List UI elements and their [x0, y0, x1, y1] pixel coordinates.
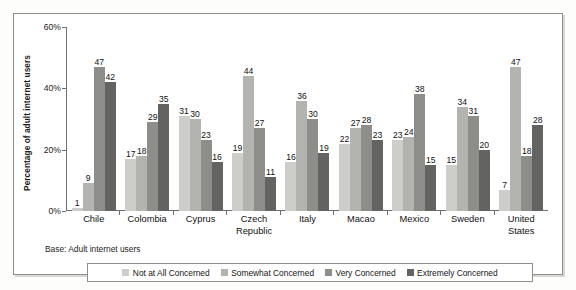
y-tick-mark [62, 88, 66, 89]
bar[interactable] [392, 140, 403, 211]
bar[interactable] [232, 153, 243, 211]
bar-value-label: 1 [75, 198, 80, 208]
bar[interactable] [532, 125, 543, 211]
bar[interactable] [457, 107, 468, 211]
bar[interactable] [285, 162, 296, 211]
bar[interactable] [499, 190, 510, 211]
bar-column: 31 [179, 27, 190, 211]
bar-column: 30 [307, 27, 318, 211]
bar-column: 35 [158, 27, 169, 211]
bar-group: 31302316 [174, 27, 227, 211]
bar[interactable] [339, 144, 350, 211]
bar-group: 19442711 [227, 27, 280, 211]
bar-value-label: 42 [105, 72, 115, 82]
bar[interactable] [243, 76, 254, 211]
bar-column: 16 [212, 27, 223, 211]
bar-value-label: 47 [94, 57, 104, 67]
y-axis-title-container: Percentage of adult internet users [22, 20, 38, 226]
bar-value-label: 19 [233, 143, 243, 153]
y-tick-mark [62, 27, 66, 28]
bar-value-label: 16 [286, 152, 296, 162]
bar[interactable] [403, 137, 414, 211]
bar-set: 194742 [72, 27, 116, 211]
bar-column: 17 [125, 27, 136, 211]
bar[interactable] [372, 140, 383, 211]
bar[interactable] [83, 183, 94, 211]
bar-value-label: 17 [126, 149, 136, 159]
legend-item[interactable]: Somewhat Concerned [221, 268, 314, 278]
bar-value-label: 23 [373, 130, 383, 140]
bar[interactable] [94, 67, 105, 211]
bar-groups: 1947421718293531302316194427111636301922… [67, 27, 548, 211]
x-category-label: Chile [67, 214, 120, 244]
bar[interactable] [361, 125, 372, 211]
bar-column: 19 [318, 27, 329, 211]
bar[interactable] [479, 150, 490, 211]
bar[interactable] [265, 177, 276, 211]
bar[interactable] [179, 116, 190, 211]
y-axis-title: Percentage of adult internet users [19, 20, 35, 226]
legend-label: Somewhat Concerned [231, 268, 314, 278]
bar-set: 19442711 [232, 27, 276, 211]
bar[interactable] [136, 156, 147, 211]
y-tick-label: 0% [49, 206, 61, 216]
bar[interactable] [105, 82, 116, 211]
bar[interactable] [350, 128, 361, 211]
bar[interactable] [446, 165, 457, 211]
bar-column: 28 [361, 27, 372, 211]
plot-area: 0%20%40%60% 1947421718293531302316194427… [66, 27, 548, 211]
bar-column: 34 [457, 27, 468, 211]
chart-frame: Percentage of adult internet users 0%20%… [13, 13, 563, 275]
bar-group: 194742 [67, 27, 120, 211]
bar[interactable] [147, 122, 158, 211]
bar[interactable] [158, 104, 169, 211]
bar[interactable] [318, 153, 329, 211]
legend-item[interactable]: Extremely Concerned [407, 268, 498, 278]
bar-column: 36 [296, 27, 307, 211]
bar-column: 23 [372, 27, 383, 211]
bar-value-label: 9 [86, 173, 91, 183]
bar-value-label: 44 [244, 66, 254, 76]
bar[interactable] [521, 156, 532, 211]
bar-column: 38 [414, 27, 425, 211]
bar-set: 31302316 [179, 27, 223, 211]
bar-value-label: 31 [179, 106, 189, 116]
legend-item[interactable]: Very Concerned [325, 268, 396, 278]
bar-column: 24 [403, 27, 414, 211]
legend-item[interactable]: Not at All Concerned [122, 268, 209, 278]
bar-column: 1 [72, 27, 83, 211]
bar-set: 22272823 [339, 27, 383, 211]
bar[interactable] [201, 140, 212, 211]
bar[interactable] [296, 101, 307, 211]
x-category-label: Czech Republic [227, 214, 280, 244]
y-tick-label: 40% [44, 83, 61, 93]
bar[interactable] [468, 116, 479, 211]
bar[interactable] [190, 119, 201, 211]
bar-value-label: 24 [404, 127, 414, 137]
bar-value-label: 47 [511, 57, 521, 67]
bar[interactable] [414, 94, 425, 211]
bar-set: 7471828 [499, 27, 543, 211]
bar-column: 28 [532, 27, 543, 211]
x-category-label: Italy [281, 214, 334, 244]
bar[interactable] [254, 128, 265, 211]
chart-legend: Not at All ConcernedSomewhat ConcernedVe… [87, 263, 533, 282]
bar[interactable] [510, 67, 521, 211]
bar[interactable] [307, 119, 318, 211]
base-note: Base: Adult internet users [45, 244, 140, 254]
bar-column: 23 [392, 27, 403, 211]
bar[interactable] [72, 208, 83, 211]
bar-column: 7 [499, 27, 510, 211]
bar-value-label: 18 [522, 146, 532, 156]
legend-swatch-icon [221, 269, 228, 276]
y-tick-label: 20% [44, 145, 61, 155]
bar-value-label: 15 [426, 155, 436, 165]
bar-column: 18 [136, 27, 147, 211]
bar[interactable] [125, 159, 136, 211]
bar[interactable] [212, 162, 223, 211]
bar-value-label: 19 [319, 143, 329, 153]
legend-label: Very Concerned [336, 268, 396, 278]
x-category-label: Macao [334, 214, 387, 244]
bar[interactable] [425, 165, 436, 211]
bar-value-label: 38 [415, 84, 425, 94]
